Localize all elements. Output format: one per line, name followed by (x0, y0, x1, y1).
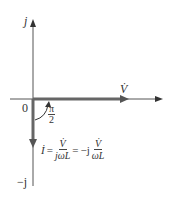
voltage-phasor-arrow-icon (120, 95, 129, 103)
current-phasor-arrow-icon (29, 139, 37, 148)
voltage-label: V̇ (120, 83, 127, 95)
frac1-numerator: V̇ (59, 138, 67, 150)
phasor-diagram (0, 0, 177, 197)
angle-denominator: 2 (49, 115, 54, 125)
negative-imag-label: −j (17, 176, 27, 188)
neg-j: −j (81, 144, 90, 156)
origin-label: 0 (22, 102, 28, 114)
frac2-denominator: ωL (92, 150, 105, 161)
current-equation: İ = V̇ jωL = −j V̇ ωL (41, 138, 104, 161)
frac1-denominator: jωL (55, 150, 70, 161)
positive-imag-label: j (24, 15, 27, 27)
eq-sign-1: = (47, 144, 53, 156)
frac2-numerator: V̇ (94, 138, 102, 150)
imaginary-axis-arrow-icon (30, 19, 36, 27)
angle-label: π 2 (48, 104, 55, 125)
real-axis-arrow-icon (155, 96, 163, 102)
eq-sign-2: = (72, 144, 78, 156)
eq-lhs: İ (41, 144, 45, 156)
angle-arc (35, 105, 48, 120)
